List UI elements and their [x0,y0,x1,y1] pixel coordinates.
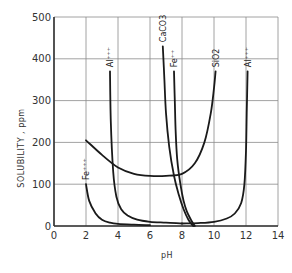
curve-label: Fe⁺⁺ [170,50,179,68]
x-tick-label: 6 [147,230,153,241]
x-tick-label: 10 [208,230,221,241]
y-axis-label: SOLUBILITY , ppm [17,108,26,187]
curve-label: Fe⁺⁺⁺ [82,158,91,180]
x-tick-label: 12 [240,230,253,241]
data-curves [86,46,248,226]
curve-fe [174,71,195,226]
y-tick-label: 200 [32,137,51,148]
curve-al-acid [110,71,182,223]
curve-al-alkaline [182,71,248,223]
curve-labels: Fe⁺⁺⁺Al⁺⁺⁺Al⁺⁺⁺SiO2CaCO3Fe⁺⁺ [82,15,253,180]
x-tick-label: 14 [272,230,285,241]
y-tick-label: 400 [32,53,51,64]
x-tick-label: 4 [115,230,121,241]
curve-label: Al⁺⁺⁺ [244,47,253,67]
solubility-chart: 0100200300400500 02468101214 pH SOLUBILI… [0,0,292,273]
x-tick-labels: 02468101214 [51,230,285,241]
x-tick-label: 8 [179,230,185,241]
y-tick-label: 300 [32,95,51,106]
x-tick-label: 0 [51,230,57,241]
x-tick-label: 2 [83,230,89,241]
x-axis-label: pH [161,251,173,260]
y-tick-labels: 0100200300400500 [32,12,51,232]
y-tick-label: 100 [32,179,51,190]
curve-caco3 [163,46,193,226]
curve-sio2 [86,71,216,176]
curve-label: CaCO3 [159,15,168,42]
curve-label: Al⁺⁺⁺ [106,47,115,67]
y-tick-label: 500 [32,12,51,23]
curve-label: SiO2 [212,49,221,68]
